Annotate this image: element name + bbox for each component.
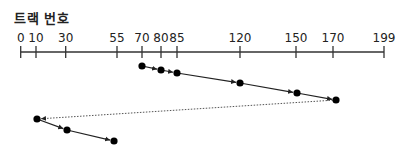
track-point-70 [138, 62, 145, 69]
track-diagram: 0103055708085120150170199 [0, 0, 401, 159]
seek-line [37, 119, 63, 129]
seek-path [33, 62, 339, 144]
track-point-150 [293, 89, 300, 96]
track-point-120 [236, 79, 243, 86]
tick-label: 10 [28, 31, 43, 45]
track-point-80 [157, 66, 164, 73]
tick-label: 0 [17, 31, 25, 45]
seek-line [297, 93, 332, 99]
tick-label: 170 [322, 31, 345, 45]
track-axis: 0103055708085120150170199 [17, 31, 396, 58]
track-point-55 [110, 137, 117, 144]
track-point-170 [332, 96, 339, 103]
seek-line [67, 130, 110, 140]
tick-label: 150 [285, 31, 308, 45]
track-point-85 [173, 69, 180, 76]
seek-line [177, 73, 236, 82]
track-point-10 [33, 115, 40, 122]
track-point-30 [63, 126, 70, 133]
tick-label: 199 [373, 31, 396, 45]
tick-label: 85 [169, 31, 184, 45]
tick-label: 55 [109, 31, 124, 45]
tick-label: 30 [58, 31, 73, 45]
tick-label: 120 [229, 31, 252, 45]
return-seek-line [41, 100, 336, 119]
tick-label: 70 [134, 31, 149, 45]
tick-label: 80 [153, 31, 168, 45]
seek-line [240, 83, 293, 92]
